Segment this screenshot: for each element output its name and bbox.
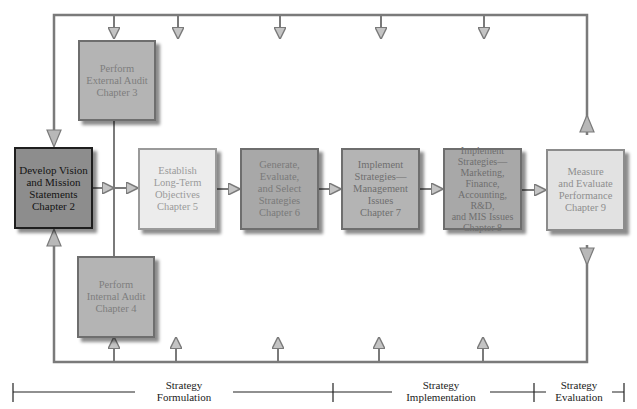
box-long-term-objectives: Establish Long-Term Objectives Chapter 5 — [138, 148, 217, 230]
phase-label-formulation: Strategy Formulation — [135, 379, 233, 403]
phase-label-evaluation: Strategy Evaluation — [546, 379, 612, 403]
loop-arrow-up-right — [580, 115, 594, 132]
phase-label-implementation: Strategy Implementation — [392, 379, 490, 403]
box-label: Implement Strategies— Management Issues … — [353, 159, 408, 219]
box-implement-management: Implement Strategies— Management Issues … — [341, 148, 420, 230]
box-internal-audit: Perform Internal Audit Chapter 4 — [77, 256, 155, 338]
box-measure-evaluate: Measure and Evaluate Performance Chapter… — [546, 149, 625, 231]
box-label: Establish Long-Term Objectives Chapter 5 — [154, 165, 202, 213]
box-label: Implement Strategies— Marketing, Finance… — [447, 145, 518, 233]
loop-arrow-down-left — [47, 130, 61, 147]
box-external-audit: Perform External Audit Chapter 3 — [78, 40, 156, 121]
box-label: Perform Internal Audit Chapter 4 — [87, 279, 146, 315]
box-label: Generate, Evaluate, and Select Strategie… — [258, 159, 301, 219]
box-label: Perform External Audit Chapter 3 — [86, 63, 148, 99]
box-vision-mission: Develop Vision and Mission Statements Ch… — [14, 147, 93, 229]
box-implement-marketing: Implement Strategies— Marketing, Finance… — [443, 148, 522, 230]
box-label: Develop Vision and Mission Statements Ch… — [19, 164, 88, 212]
box-generate-strategies: Generate, Evaluate, and Select Strategie… — [240, 148, 319, 230]
loop-arrow-up-left — [47, 229, 61, 246]
loop-arrow-down-right — [580, 248, 594, 265]
box-label: Measure and Evaluate Performance Chapter… — [558, 166, 613, 214]
